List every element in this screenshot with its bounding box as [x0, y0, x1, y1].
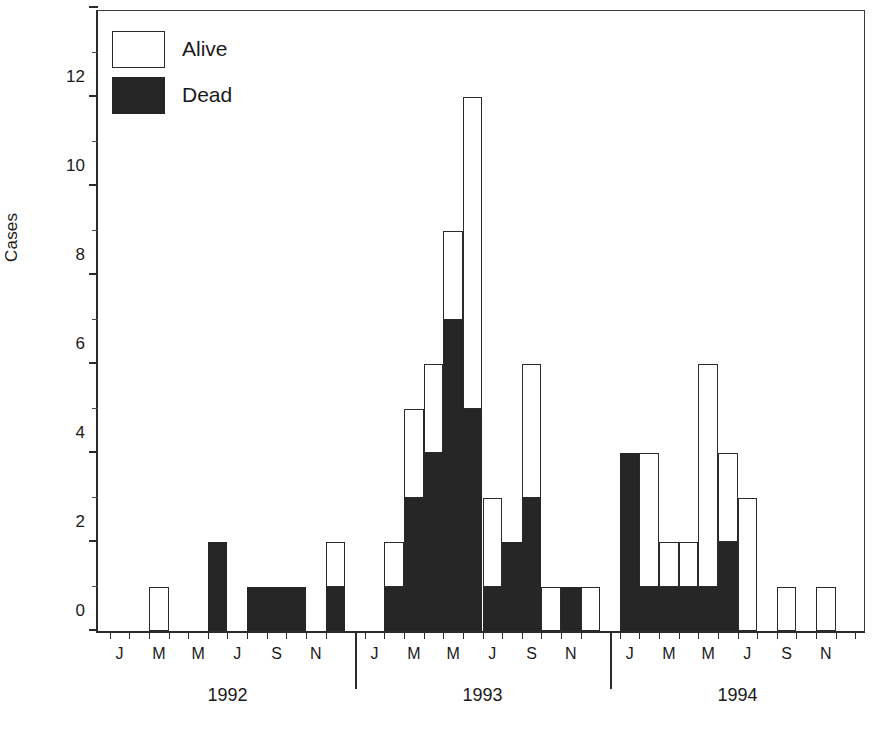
x-axis-tick	[306, 631, 307, 639]
bar-segment-alive	[679, 542, 699, 587]
x-axis-tick	[620, 631, 621, 639]
y-axis-tick-label: 4	[45, 423, 85, 443]
bar-1993-o[interactable]	[541, 587, 561, 632]
bar-1994-n[interactable]	[816, 587, 836, 632]
x-axis-tick	[777, 631, 778, 639]
bar-1994-f[interactable]	[639, 453, 659, 631]
x-axis-month-label: M	[191, 645, 204, 663]
y-axis-tick	[89, 451, 98, 453]
bar-1993-j[interactable]	[463, 97, 483, 631]
bar-segment-alive	[326, 542, 346, 587]
y-axis-tick-label: 2	[45, 512, 85, 532]
bar-1994-j[interactable]	[738, 498, 758, 632]
x-axis-month-label: M	[446, 645, 459, 663]
bar-1993-m[interactable]	[443, 231, 463, 632]
x-axis-tick	[757, 631, 758, 639]
x-axis-tick	[169, 631, 170, 639]
bar-segment-alive	[698, 364, 718, 587]
bar-1993-a[interactable]	[424, 364, 444, 631]
bar-segment-alive	[639, 453, 659, 587]
x-axis-tick	[326, 631, 327, 639]
legend-label-dead: Dead	[182, 83, 232, 107]
x-axis-tick	[522, 631, 523, 639]
y-axis-tick	[92, 497, 98, 498]
x-axis-tick	[110, 631, 111, 639]
x-axis-tick	[581, 631, 582, 639]
bar-1992-s[interactable]	[267, 587, 287, 632]
x-axis-tick	[129, 631, 130, 639]
x-axis-tick	[796, 631, 797, 639]
x-axis-year-label-1992: 1992	[207, 685, 247, 706]
bar-1994-a[interactable]	[679, 542, 699, 631]
y-axis-tick	[92, 586, 98, 587]
bar-segment-dead	[443, 320, 463, 632]
x-axis-tick	[738, 631, 739, 639]
x-axis-month-label: J	[626, 645, 634, 663]
x-axis-tick	[365, 631, 366, 639]
x-axis-month-label: N	[565, 645, 577, 663]
y-axis-tick	[89, 362, 98, 364]
y-axis-tick	[92, 52, 98, 53]
bar-segment-dead	[698, 587, 718, 632]
y-axis-tick-label: 6	[45, 334, 85, 354]
x-axis-tick	[247, 631, 248, 639]
bar-segment-dead	[522, 498, 542, 632]
bar-segment-dead	[639, 587, 659, 632]
x-axis-tick	[227, 631, 228, 639]
bar-1993-n[interactable]	[561, 587, 581, 632]
x-axis-tick	[561, 631, 562, 639]
bar-1992-d[interactable]	[326, 542, 346, 631]
bar-segment-dead	[247, 587, 267, 632]
bar-segment-alive	[816, 587, 836, 632]
bar-segment-dead	[267, 587, 287, 632]
x-axis-month-label: M	[662, 645, 675, 663]
bar-1994-j[interactable]	[718, 453, 738, 631]
y-axis-tick	[89, 273, 98, 275]
bar-segment-alive	[424, 364, 444, 453]
bar-segment-alive	[384, 542, 404, 587]
bar-1994-m[interactable]	[659, 542, 679, 631]
bar-1993-d[interactable]	[581, 587, 601, 632]
x-axis-month-label: M	[407, 645, 420, 663]
bar-segment-alive	[541, 587, 561, 632]
bar-segment-alive	[443, 231, 463, 320]
x-axis-month-label: J	[488, 645, 496, 663]
bar-1993-f[interactable]	[384, 542, 404, 631]
legend-swatch-dead-icon	[112, 77, 165, 114]
bar-segment-alive	[659, 542, 679, 587]
legend-label-alive: Alive	[182, 37, 228, 61]
bar-1994-m[interactable]	[698, 364, 718, 631]
bar-1993-m[interactable]	[404, 409, 424, 632]
bar-1994-s[interactable]	[777, 587, 797, 632]
y-axis-title: Cases	[2, 102, 22, 262]
bar-1992-a[interactable]	[247, 587, 267, 632]
x-axis-tick	[698, 631, 699, 639]
x-axis-tick	[208, 631, 209, 639]
x-axis-tick	[659, 631, 660, 639]
y-axis-tick-label: 12	[45, 67, 85, 87]
y-axis-tick	[89, 629, 98, 631]
legend-item-alive: Alive	[112, 26, 232, 72]
bar-1992-j[interactable]	[208, 542, 228, 631]
x-axis-tick	[463, 631, 464, 639]
bar-segment-alive	[149, 587, 169, 632]
bar-segment-alive	[738, 498, 758, 632]
x-axis-month-label: M	[701, 645, 714, 663]
x-axis-tick	[816, 631, 817, 639]
bar-1992-o[interactable]	[286, 587, 306, 632]
chart-legend: Alive Dead	[112, 26, 232, 118]
bar-1994-j[interactable]	[620, 453, 640, 631]
x-axis-tick	[836, 631, 837, 639]
y-axis-tick	[89, 540, 98, 542]
y-axis-tick	[92, 230, 98, 231]
bar-1993-a[interactable]	[502, 542, 522, 631]
bar-segment-dead	[659, 587, 679, 632]
y-axis-tick	[89, 95, 98, 97]
bar-1993-j[interactable]	[483, 498, 503, 632]
bar-1993-s[interactable]	[522, 364, 542, 631]
bar-1992-m[interactable]	[149, 587, 169, 632]
x-axis-month-label: S	[271, 645, 282, 663]
bar-segment-alive	[404, 409, 424, 498]
x-axis-tick	[541, 631, 542, 639]
x-axis-month-label: J	[116, 645, 124, 663]
